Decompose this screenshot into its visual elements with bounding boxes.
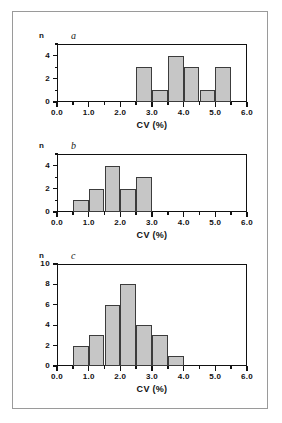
x-axis-title: CV (%) [37, 384, 267, 394]
x-axis-minor-tick [199, 366, 200, 369]
x-axis-tick-label: 2.0 [104, 218, 136, 227]
x-axis-minor-tick [72, 102, 73, 105]
y-axis-tick-label: 10 [23, 259, 50, 268]
y-axis-tick [53, 263, 58, 264]
x-axis-tick [120, 366, 121, 371]
y-axis-minor-tick [55, 67, 58, 68]
histogram-bar [105, 305, 121, 366]
x-axis-minor-tick [199, 102, 200, 105]
histogram-bar [168, 56, 184, 102]
x-axis-tick-label: 4.0 [168, 372, 200, 381]
x-axis-minor-tick [104, 212, 105, 215]
y-axis-tick-label: 4 [23, 320, 50, 329]
y-axis-tick [53, 345, 58, 346]
x-axis-tick-label: 3.0 [136, 372, 168, 381]
y-axis-minor-tick [55, 43, 58, 44]
x-axis-tick [183, 366, 184, 371]
x-axis-tick-label: 4.0 [168, 218, 200, 227]
y-axis-tick-label: 6 [23, 300, 50, 309]
x-axis-tick [246, 366, 247, 371]
y-axis-tick [53, 325, 58, 326]
y-axis-tick-label: 2 [23, 184, 50, 193]
histogram-bar [136, 67, 152, 102]
x-axis-tick [88, 212, 89, 217]
figure-frame: an0240.01.02.03.04.05.06.0CV (%)bn0240.0… [12, 11, 268, 409]
x-axis-tick [88, 102, 89, 107]
x-axis-tick-label: 2.0 [104, 372, 136, 381]
histogram-bar [152, 335, 168, 366]
x-axis-tick [215, 366, 216, 371]
x-axis-minor-tick [72, 212, 73, 215]
y-axis-tick-label: 0 [23, 207, 50, 216]
x-axis-minor-tick [199, 212, 200, 215]
x-axis-tick [56, 102, 57, 107]
histogram-bar [120, 284, 136, 366]
y-axis-minor-tick [55, 153, 58, 154]
panel-letter-a: a [71, 30, 76, 41]
x-axis-tick-label: 3.0 [136, 218, 168, 227]
x-axis-minor-tick [167, 102, 168, 105]
y-axis-tick-label: 4 [23, 161, 50, 170]
y-axis-minor-tick [55, 90, 58, 91]
x-axis-tick-label: 5.0 [199, 218, 231, 227]
histogram-bar [136, 325, 152, 366]
histogram-bar [89, 335, 105, 366]
x-axis-tick [183, 212, 184, 217]
y-axis-unit-label: n [39, 31, 44, 40]
histogram-bar [200, 90, 216, 102]
y-axis-tick-label: 4 [23, 51, 50, 60]
histogram-bar [105, 166, 121, 212]
y-axis-minor-tick [55, 200, 58, 201]
x-axis-minor-tick [230, 212, 231, 215]
x-axis-tick-label: 1.0 [73, 218, 105, 227]
x-axis-minor-tick [135, 212, 136, 215]
panel-letter-b: b [71, 140, 76, 151]
x-axis-tick [151, 102, 152, 107]
x-axis-tick-label: 2.0 [104, 108, 136, 117]
x-axis-tick [151, 366, 152, 371]
histogram-bar [120, 189, 136, 212]
x-axis-title: CV (%) [37, 120, 267, 130]
x-axis-tick [215, 102, 216, 107]
histogram-bar [168, 356, 184, 366]
x-axis-minor-tick [135, 102, 136, 105]
x-axis-minor-tick [104, 366, 105, 369]
x-axis-tick-label: 1.0 [73, 108, 105, 117]
x-axis-tick-label: 5.0 [199, 372, 231, 381]
y-axis-tick-label: 2 [23, 74, 50, 83]
y-axis-tick [53, 188, 58, 189]
x-axis-tick [120, 102, 121, 107]
x-axis-minor-tick [230, 366, 231, 369]
y-axis-tick-label: 0 [23, 361, 50, 370]
x-axis-tick [151, 212, 152, 217]
x-axis-tick [56, 366, 57, 371]
x-axis-minor-tick [167, 366, 168, 369]
y-axis-unit-label: n [39, 141, 44, 150]
x-axis-minor-tick [167, 212, 168, 215]
x-axis-tick [120, 212, 121, 217]
x-axis-tick-label: 1.0 [73, 372, 105, 381]
y-axis-tick-label: 8 [23, 279, 50, 288]
x-axis-tick-label: 0.0 [41, 218, 73, 227]
x-axis-minor-tick [230, 102, 231, 105]
x-axis-tick [56, 212, 57, 217]
histogram-bar [215, 67, 231, 102]
x-axis-tick [246, 102, 247, 107]
y-axis-tick-label: 2 [23, 341, 50, 350]
x-axis-tick-label: 6.0 [231, 108, 263, 117]
histogram-bar [136, 177, 152, 212]
y-axis-tick [53, 55, 58, 56]
x-axis-tick-label: 3.0 [136, 108, 168, 117]
y-axis-tick [53, 78, 58, 79]
x-axis-minor-tick [104, 102, 105, 105]
histogram-bar [73, 346, 89, 366]
y-axis-tick [53, 304, 58, 305]
y-axis-tick [53, 284, 58, 285]
y-axis-tick [53, 165, 58, 166]
x-axis-title: CV (%) [37, 230, 267, 240]
y-axis-tick-label: 0 [23, 97, 50, 106]
y-axis-minor-tick [55, 177, 58, 178]
x-axis-tick [215, 212, 216, 217]
x-axis-tick-label: 4.0 [168, 108, 200, 117]
figure-page: an0240.01.02.03.04.05.06.0CV (%)bn0240.0… [0, 0, 282, 423]
